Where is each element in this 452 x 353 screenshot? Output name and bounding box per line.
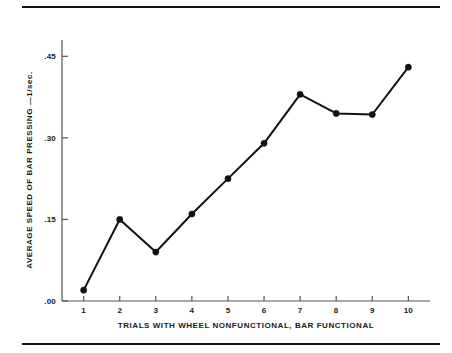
data-point-marker (153, 249, 159, 255)
data-point-marker (81, 287, 87, 293)
x-axis-title: TRIALS WITH WHEEL NONFUNCTIONAL, BAR FUN… (118, 321, 374, 330)
y-axis-title: AVERAGE SPEED OF BAR PRESSING —1/sec. (25, 71, 34, 269)
figure-container: .00.15.30.45 12345678910 TRIALS WITH WHE… (0, 0, 452, 353)
y-tick-label: .00 (44, 297, 56, 306)
data-point-marker (189, 211, 195, 217)
data-point-marker (225, 176, 231, 182)
x-tick-label: 10 (404, 306, 414, 315)
x-tick-label: 9 (370, 306, 375, 315)
data-series (81, 64, 412, 293)
x-tick-label: 6 (262, 306, 267, 315)
x-tick-label: 3 (153, 306, 158, 315)
x-tick-label: 2 (117, 306, 122, 315)
series-line (84, 67, 409, 290)
data-point-marker (261, 140, 267, 146)
y-tick-label: .30 (44, 134, 56, 143)
axes (62, 40, 430, 301)
y-axis-ticks: .00.15.30.45 (44, 52, 68, 306)
data-point-marker (297, 91, 303, 97)
line-chart: .00.15.30.45 12345678910 TRIALS WITH WHE… (0, 0, 452, 353)
y-tick-label: .45 (44, 52, 56, 61)
x-tick-label: 1 (81, 306, 86, 315)
x-tick-label: 5 (226, 306, 231, 315)
x-axis-ticks: 12345678910 (81, 296, 413, 315)
x-tick-label: 8 (334, 306, 339, 315)
data-point-marker (117, 216, 123, 222)
x-tick-label: 4 (190, 306, 195, 315)
x-tick-label: 7 (298, 306, 303, 315)
y-tick-label: .15 (44, 215, 56, 224)
data-point-marker (405, 64, 411, 70)
data-point-marker (369, 111, 375, 117)
data-point-marker (333, 110, 339, 116)
